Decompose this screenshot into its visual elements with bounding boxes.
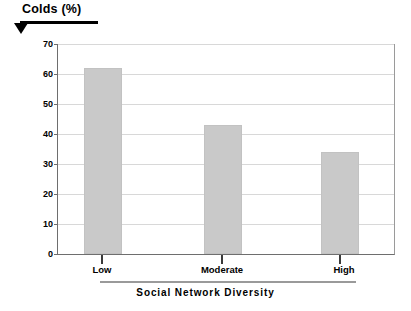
x-tick-label-moderate: Moderate [201, 264, 243, 275]
y-tick-label: 50 [19, 99, 53, 109]
y-tick-mark [54, 44, 58, 45]
y-tick-mark [54, 164, 58, 165]
y-tick-label: 0 [19, 249, 53, 259]
x-tick-mark [101, 255, 103, 264]
y-axis: 70 60 50 40 30 20 10 0 [15, 44, 53, 254]
bar-moderate [204, 125, 242, 254]
y-tick-mark [54, 194, 58, 195]
y-tick-label: 10 [19, 219, 53, 229]
y-tick-mark [54, 104, 58, 105]
y-tick-label: 70 [19, 39, 53, 49]
triangle-down-icon [14, 23, 28, 34]
y-tick-label: 20 [19, 189, 53, 199]
y-tick-label: 40 [19, 129, 53, 139]
x-tick-label-low: Low [93, 264, 112, 275]
x-tick-label-high: High [333, 264, 354, 275]
y-tick-mark [54, 224, 58, 225]
y-tick-mark [54, 254, 58, 255]
bar-chart: Colds (%) 70 60 50 40 30 20 10 0 [0, 0, 411, 311]
y-tick-label: 60 [19, 69, 53, 79]
y-tick-mark [54, 74, 58, 75]
gridline [58, 44, 394, 45]
y-tick-label: 30 [19, 159, 53, 169]
bar-low [84, 68, 122, 254]
chart-title-block: Colds (%) [8, 2, 128, 36]
x-tick-mark [339, 255, 341, 264]
bar-high [321, 152, 359, 254]
page-title: Colds (%) [22, 2, 81, 16]
x-axis-rule [100, 281, 356, 283]
plot-area [57, 44, 395, 255]
x-axis-title: Social Network Diversity [0, 287, 411, 298]
x-tick-mark [221, 255, 223, 264]
title-underline-rule [20, 21, 98, 24]
y-tick-mark [54, 134, 58, 135]
